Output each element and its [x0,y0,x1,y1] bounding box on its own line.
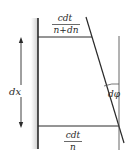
bottom-fraction-denominator: n [70,142,76,152]
bottom-fraction-numerator: cdt [66,130,81,140]
dphi-label: dφ [108,89,121,99]
boundary-shading [31,18,38,149]
wavefront-diagram: dx dφ cdt n+dn cdt n [0,0,130,158]
dx-arrow [19,37,23,128]
slanted-wavefront-line [86,17,124,143]
top-fraction-numerator: cdt [58,13,73,23]
top-fraction-denominator: n+dn [54,25,79,35]
dx-label: dx [9,86,21,97]
arrow-down-icon [19,122,23,128]
arrow-up-icon [19,37,23,43]
